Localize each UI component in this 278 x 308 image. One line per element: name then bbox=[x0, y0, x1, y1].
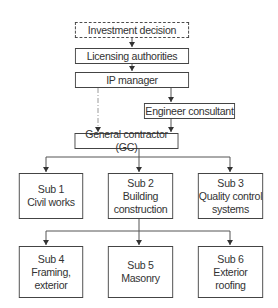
node-label: Sub 6 Exterior roofing bbox=[213, 253, 247, 292]
node-sub2: Sub 2 Building construction bbox=[108, 173, 173, 219]
node-sub5: Sub 5 Masonry bbox=[108, 246, 173, 298]
node-label: Investment decision bbox=[88, 24, 176, 37]
node-engineer-consultant: Engineer consultant bbox=[144, 103, 235, 119]
node-label: IP manager bbox=[106, 74, 158, 87]
node-label: Sub 1 Civil works bbox=[27, 183, 75, 209]
node-label: Sub 4 Framing, exterior bbox=[31, 253, 71, 292]
node-label: Licensing authorities bbox=[87, 50, 178, 63]
node-sub4: Sub 4 Framing, exterior bbox=[19, 246, 83, 298]
node-label: Sub 5 Masonry bbox=[121, 259, 160, 285]
node-label: Sub 2 Building construction bbox=[114, 177, 168, 216]
node-sub6: Sub 6 Exterior roofing bbox=[198, 246, 263, 298]
node-licensing-authorities: Licensing authorities bbox=[75, 48, 189, 64]
node-sub3: Sub 3 Quality control systems bbox=[198, 173, 263, 219]
node-label: Sub 3 Quality control systems bbox=[199, 177, 262, 216]
node-label: Engineer consultant bbox=[145, 105, 233, 118]
node-investment-decision: Investment decision bbox=[75, 22, 189, 38]
node-sub1: Sub 1 Civil works bbox=[19, 173, 83, 219]
node-label: General contractor (GC) bbox=[75, 128, 177, 154]
node-ip-manager: IP manager bbox=[75, 72, 189, 88]
node-general-contractor: General contractor (GC) bbox=[75, 133, 179, 149]
